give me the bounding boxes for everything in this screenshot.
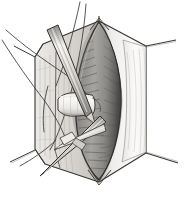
spur-left-lower <box>10 150 35 162</box>
illustration-canvas <box>0 0 188 198</box>
spur-left-upper <box>14 46 35 57</box>
spur-right-upper <box>146 40 176 46</box>
surgical-illustration-figure <box>0 0 188 198</box>
spur-right-lower <box>146 153 178 163</box>
